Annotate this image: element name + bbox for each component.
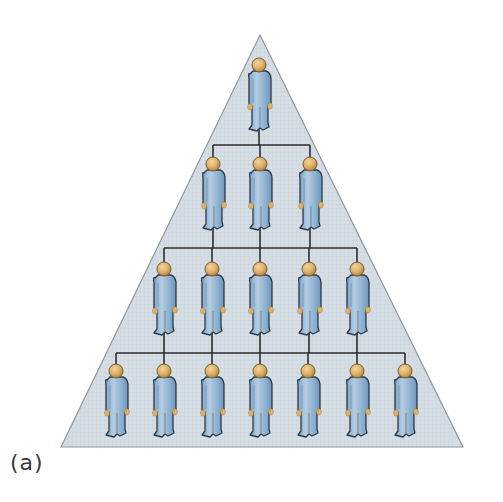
hand-icon <box>414 409 419 415</box>
hand-icon <box>202 203 207 209</box>
hand-icon <box>317 409 322 415</box>
hand-icon <box>173 409 178 415</box>
hand-icon <box>269 409 274 415</box>
hand-icon <box>366 307 371 313</box>
person-head-icon <box>109 364 123 378</box>
hand-icon <box>249 308 254 314</box>
hand-icon <box>297 410 302 416</box>
hand-icon <box>249 203 254 209</box>
person-head-icon <box>301 364 315 378</box>
hand-icon <box>298 308 303 314</box>
hand-icon <box>346 410 351 416</box>
person-head-icon <box>303 157 317 171</box>
hand-icon <box>394 410 399 416</box>
hand-icon <box>268 103 273 109</box>
hand-icon <box>269 202 274 208</box>
person-head-icon <box>205 262 219 276</box>
hand-icon <box>299 203 304 209</box>
hand-icon <box>346 308 351 314</box>
person-head-icon <box>302 262 316 276</box>
hand-icon <box>249 410 254 416</box>
hand-icon <box>201 308 206 314</box>
person-head-icon <box>206 157 220 171</box>
person-head-icon <box>157 262 171 276</box>
figure-caption: (a) <box>10 450 44 475</box>
person-head-icon <box>205 364 219 378</box>
person-head-icon <box>253 157 267 171</box>
hand-icon <box>173 307 178 313</box>
hand-icon <box>318 307 323 313</box>
hand-icon <box>269 307 274 313</box>
hand-icon <box>319 202 324 208</box>
hand-icon <box>153 410 158 416</box>
hand-icon <box>125 409 130 415</box>
person-head-icon <box>253 262 267 276</box>
person-head-icon <box>157 364 171 378</box>
hand-icon <box>222 202 227 208</box>
hierarchy-diagram <box>0 0 503 502</box>
hand-icon <box>105 410 110 416</box>
person-head-icon <box>350 364 364 378</box>
person-head-icon <box>253 364 267 378</box>
hand-icon <box>248 104 253 110</box>
hand-icon <box>221 409 226 415</box>
person-head-icon <box>350 262 364 276</box>
person-head-icon <box>398 364 412 378</box>
hand-icon <box>221 307 226 313</box>
hand-icon <box>201 410 206 416</box>
hand-icon <box>366 409 371 415</box>
hand-icon <box>153 308 158 314</box>
person-head-icon <box>252 58 266 72</box>
